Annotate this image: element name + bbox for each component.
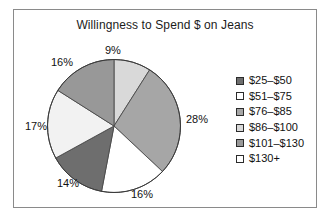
legend-item-label: $25–$50 <box>249 75 292 86</box>
legend-item[interactable]: $76–$85 <box>236 104 322 120</box>
legend-swatch-icon <box>236 124 244 132</box>
pie-chart <box>46 58 182 194</box>
slice-label-top-left: 16% <box>51 56 73 68</box>
legend-item-label: $76–$85 <box>249 106 292 117</box>
legend: $25–$50$51–$75$76–$85$86–$100$101–$130$1… <box>236 73 322 167</box>
legend-swatch-icon <box>236 155 244 163</box>
legend-item[interactable]: $25–$50 <box>236 73 322 89</box>
legend-swatch-icon <box>236 77 244 85</box>
slice-label-top: 9% <box>105 44 121 56</box>
pie-svg <box>46 58 182 194</box>
legend-item[interactable]: $130+ <box>236 151 322 167</box>
legend-item[interactable]: $101–$130 <box>236 135 322 151</box>
legend-item[interactable]: $51–$75 <box>236 89 322 105</box>
legend-item-label: $86–$100 <box>249 122 298 133</box>
legend-swatch-icon <box>236 139 244 147</box>
legend-swatch-icon <box>236 108 244 116</box>
legend-item[interactable]: $86–$100 <box>236 120 322 136</box>
slice-label-left: 17% <box>25 120 47 132</box>
legend-item-label: $51–$75 <box>249 91 292 102</box>
legend-item-label: $130+ <box>249 153 280 164</box>
legend-item-label: $101–$130 <box>249 138 304 149</box>
chart-title: Willingness to Spend $ on Jeans <box>13 18 317 32</box>
slice-label-bottom-left: 14% <box>57 177 79 189</box>
slice-label-right: 28% <box>186 113 208 125</box>
slice-label-bottom: 16% <box>131 188 153 200</box>
pie-chart-figure: Willingness to Spend $ on Jeans 9% 28% 1… <box>0 0 330 222</box>
legend-swatch-icon <box>236 92 244 100</box>
